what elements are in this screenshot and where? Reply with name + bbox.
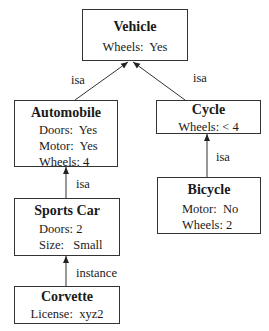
node-title: Sports Car	[15, 202, 119, 220]
edge-label-bicycle-cycle: isa	[216, 150, 230, 164]
edge-label-cycle-vehicle: isa	[193, 71, 207, 85]
node-title: Bicycle	[158, 181, 260, 199]
node-attr: Motor: No	[182, 201, 260, 217]
node-attr: Doors: Yes	[39, 122, 117, 138]
node-title: Vehicle	[83, 18, 187, 36]
edge-label-sportscar-automobile: isa	[76, 177, 90, 191]
node-automobile: Automobile Doors: Yes Motor: Yes Wheels:…	[14, 100, 118, 167]
node-attr: Size: Small	[39, 237, 119, 253]
node-attr: Wheels: 2	[182, 217, 260, 233]
node-attr: Motor: Yes	[39, 138, 117, 154]
node-corvette: Corvette License: xyz2	[14, 286, 120, 324]
node-attr: Wheels: < 4	[157, 119, 260, 135]
node-vehicle: Vehicle Wheels: Yes	[82, 9, 188, 61]
edge-cycle-vehicle	[133, 62, 185, 100]
edge-label-corvette-sportscar: instance	[76, 266, 117, 280]
node-attr: Doors: 2	[39, 221, 119, 237]
edge-label-automobile-vehicle: isa	[71, 73, 85, 87]
node-sports-car: Sports Car Doors: 2 Size: Small	[14, 198, 120, 256]
node-bicycle: Bicycle Motor: No Wheels: 2	[157, 177, 261, 234]
node-title: Cycle	[157, 101, 260, 119]
node-attr: License: xyz2	[15, 306, 119, 322]
node-title: Automobile	[15, 104, 117, 122]
node-title: Corvette	[15, 288, 119, 306]
node-attr: Wheels: 4	[39, 154, 117, 170]
node-cycle: Cycle Wheels: < 4	[156, 100, 261, 134]
node-attr: Wheels: Yes	[83, 39, 187, 55]
